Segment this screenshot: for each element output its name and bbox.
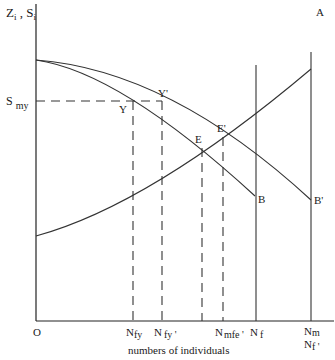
x-label-N-mfe-prime: Nmfe ' bbox=[215, 326, 244, 340]
x-label-N-fy-prime: Nfy ' bbox=[154, 326, 177, 340]
x-label-N-f-prime: Nf ' bbox=[304, 338, 320, 352]
economics-diagram: Zi , Si Smy A B B' E E' Y Y' O Nfy Nfy '… bbox=[0, 0, 335, 360]
s-my-label: Smy bbox=[6, 94, 28, 111]
x-axis-label: numbers of individuals bbox=[128, 344, 229, 356]
point-label-B-prime: B' bbox=[314, 194, 323, 206]
x-label-N-m: Nm bbox=[304, 325, 320, 338]
y-axis-label: Zi , Si bbox=[6, 5, 36, 22]
point-label-A: A bbox=[316, 6, 324, 18]
point-label-Y-prime: Y' bbox=[158, 87, 168, 99]
origin-label: O bbox=[33, 326, 41, 338]
rising-curve-to-A bbox=[36, 69, 311, 236]
point-label-E-prime: E' bbox=[217, 122, 226, 134]
point-label-E: E bbox=[195, 133, 202, 145]
point-label-Y: Y bbox=[119, 103, 127, 115]
falling-curve-to-B-prime bbox=[36, 60, 311, 200]
point-label-B: B bbox=[258, 193, 265, 205]
x-label-N-fy: Nfy bbox=[126, 326, 142, 340]
x-label-N-f: Nf bbox=[250, 326, 264, 340]
